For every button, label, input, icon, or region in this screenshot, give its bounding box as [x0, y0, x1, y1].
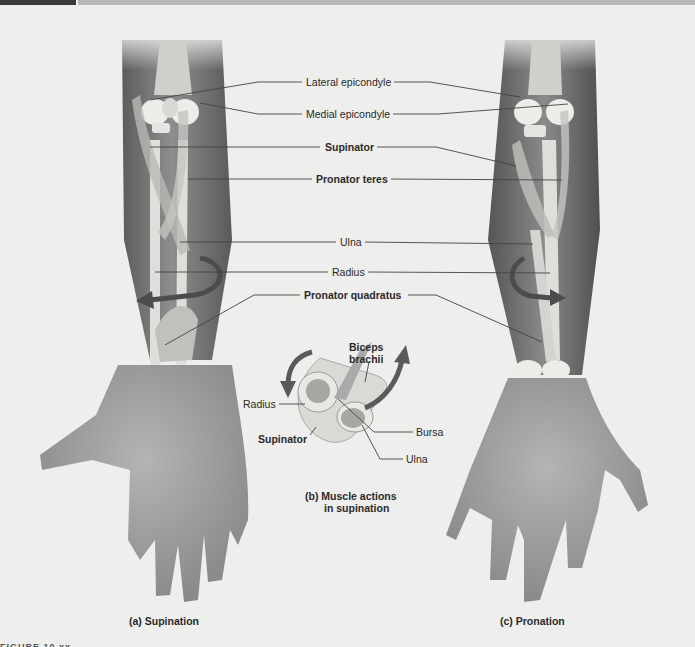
inset-label-ulna: Ulna: [403, 453, 431, 465]
forearm-illustration: [0, 0, 695, 647]
inset-label-biceps-line1: Biceps: [346, 341, 386, 353]
label-radius: Radius: [329, 266, 368, 278]
inset-label-bursa: Bursa: [413, 426, 446, 438]
supination-inset-diagram: [280, 342, 410, 442]
inset-label-supinator: Supinator: [255, 433, 310, 445]
caption-pronation: (c) Pronation: [500, 615, 565, 628]
label-pronator-quadratus: Pronator quadratus: [301, 289, 404, 301]
label-supinator: Supinator: [322, 141, 377, 153]
label-ulna: Ulna: [337, 236, 365, 248]
inset-label-biceps-line2: brachii: [346, 353, 386, 365]
pronation-arm: [446, 30, 648, 602]
label-lateral-epicondyle: Lateral epicondyle: [303, 76, 394, 88]
label-pronator-teres: Pronator teres: [313, 173, 391, 185]
inset-caption-line2: in supination: [324, 502, 389, 515]
inset-label-radius: Radius: [240, 398, 279, 410]
label-medial-epicondyle: Medial epicondyle: [303, 108, 393, 120]
caption-supination: (a) Supination: [129, 615, 199, 628]
figure-footer-truncated: FIGURE 10.xx: [0, 641, 71, 647]
